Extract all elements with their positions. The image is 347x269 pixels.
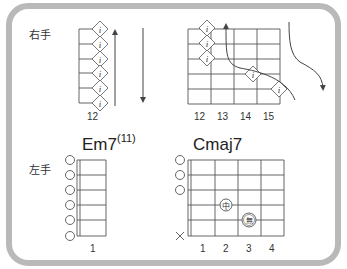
fret-label: 14 [240,111,251,122]
fret-label: 15 [263,111,274,122]
finger-middle-icon: 中 [220,199,232,211]
fret-label: 1 [90,243,96,254]
chord-name: Em7 [82,135,117,154]
muted-string-x-icon [176,232,184,240]
chord-extension: (11) [117,132,136,144]
fret-label: 12 [194,111,205,122]
finger-ring-icon: 無 [242,213,256,227]
diagrams-svg: i [0,0,347,269]
chord-name: Cmaj7 [193,135,242,154]
svg-text:無: 無 [246,216,253,225]
cmaj7-chord-grid [188,160,284,236]
fret-label: 3 [246,243,252,254]
fret-label: 13 [217,111,228,122]
svg-text:中: 中 [222,201,230,211]
cmaj7-open-string-icons [176,156,185,195]
fret-label: 2 [223,243,229,254]
fret-label: 4 [269,243,275,254]
chord-title-em7: Em7(11) [82,135,136,155]
fret-label: 1 [200,243,206,254]
right-hand-grid-marks [199,20,287,97]
chord-title-cmaj7: Cmaj7 [193,135,242,155]
right-hand-strum-diagram [79,29,94,103]
em7-chord-grid [77,160,106,236]
finger-i-marks [92,21,108,111]
fret-label: 12 [87,111,98,122]
curved-arrow-down-icon [289,22,323,88]
em7-open-string-icons [66,156,75,241]
